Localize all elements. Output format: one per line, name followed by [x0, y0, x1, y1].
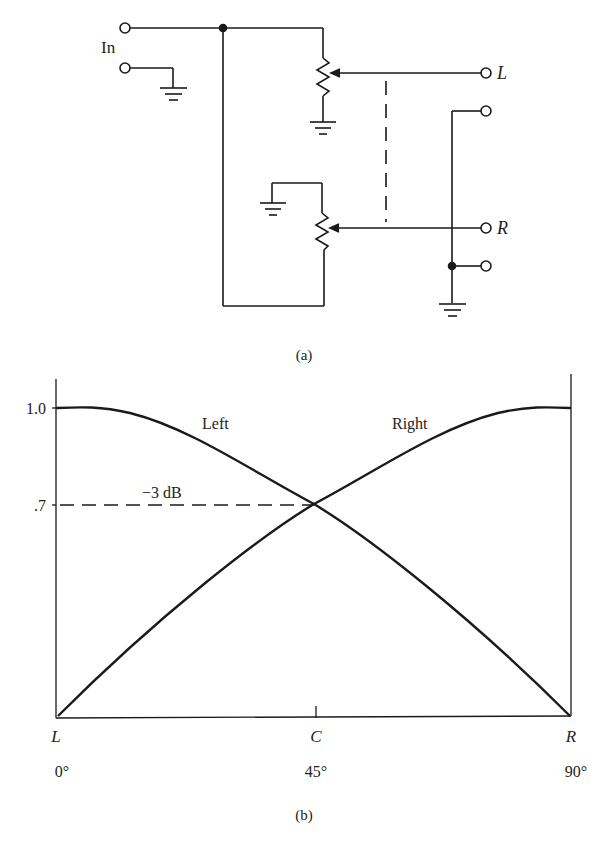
left-curve	[56, 407, 570, 716]
right-curve-label: Right	[392, 415, 428, 433]
x-label-right: R	[565, 727, 577, 746]
output-terminal-common	[481, 261, 491, 271]
ground-icon	[439, 304, 466, 316]
potentiometer-upper-icon	[317, 58, 329, 96]
caption-a: (a)	[296, 347, 313, 364]
right-curve	[58, 407, 571, 716]
ground-icon	[260, 203, 286, 215]
output-right-label: R	[496, 218, 508, 238]
input-terminal-ground	[120, 63, 130, 73]
output-terminal-aux	[481, 106, 491, 116]
output-terminal-right	[481, 223, 491, 233]
ground-icon	[310, 122, 336, 134]
angle-0: 0°	[55, 763, 69, 780]
angle-90: 90°	[565, 763, 587, 780]
y-tick-1: 1.0	[26, 400, 46, 417]
ground-icon	[160, 88, 187, 100]
x-label-left: L	[50, 727, 60, 746]
pan-law-chart	[52, 374, 571, 718]
wiper-arrow-icon	[331, 69, 340, 77]
input-label: In	[101, 38, 116, 57]
angle-45: 45°	[305, 763, 327, 780]
circuit-diagram	[120, 23, 491, 316]
figure-canvas: In L R (a) 1.0 .7 −3 dB Left Right L C R…	[0, 0, 608, 844]
output-left-label: L	[496, 63, 507, 83]
input-terminal-top	[120, 23, 130, 33]
potentiometer-lower-icon	[316, 213, 328, 250]
left-curve-label: Left	[202, 415, 229, 432]
caption-b: (b)	[295, 807, 313, 824]
x-label-center: C	[310, 727, 322, 746]
y-tick-07: .7	[34, 497, 46, 514]
wiper-arrow-icon	[330, 224, 339, 232]
x-axis	[56, 716, 571, 718]
output-terminal-left	[481, 68, 491, 78]
minus-3db-label: −3 dB	[142, 484, 182, 501]
